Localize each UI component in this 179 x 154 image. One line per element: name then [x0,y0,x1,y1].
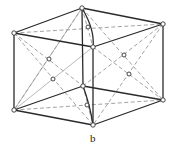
corner-atom [91,45,95,49]
corner-atom [12,108,16,112]
fcc-unit-cell-diagram [0,0,179,154]
figure-label: b [90,132,96,144]
corner-atom [161,98,165,102]
face-center-atom [47,57,51,61]
face-center-atom [86,25,90,29]
face-center-atom [85,103,89,107]
corner-atom [91,123,95,127]
corner-atom [12,31,16,35]
corner-atom [81,84,85,88]
corner-atom [161,22,165,26]
face-center-atom [122,53,126,57]
face-center-atom [51,77,55,81]
face-center-atom [127,72,131,76]
corner-atom [80,6,84,10]
